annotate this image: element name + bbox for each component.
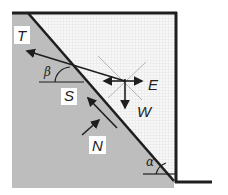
wedge-diagram: T β S E W N α: [0, 0, 228, 195]
label-E: E: [148, 76, 159, 93]
label-beta: β: [43, 65, 51, 79]
label-N: N: [92, 137, 103, 154]
label-alpha: α: [146, 155, 154, 169]
label-W: W: [137, 103, 153, 120]
label-S: S: [64, 87, 74, 104]
